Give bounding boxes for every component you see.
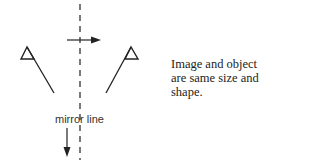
arrow-right-icon bbox=[67, 37, 101, 44]
caption-line: shape. bbox=[171, 85, 280, 99]
caption-text: Image and object are same size and shape… bbox=[171, 57, 280, 99]
mirror-line-label: mirror line bbox=[55, 113, 104, 125]
image-flag bbox=[106, 47, 138, 93]
arrow-down-icon bbox=[64, 128, 71, 157]
caption-line: are same size and bbox=[171, 71, 280, 85]
caption-line: Image and object bbox=[171, 57, 280, 71]
object-flag bbox=[21, 47, 54, 93]
